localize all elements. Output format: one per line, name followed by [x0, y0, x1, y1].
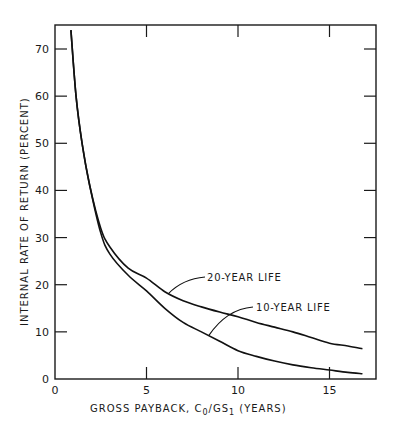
axis-tick-labels: 051015010203040506070 — [35, 43, 337, 397]
chart: 051015010203040506070 20-YEAR LIFE10-YEA… — [0, 0, 395, 429]
y-axis-title: INTERNAL RATE OF RETURN (PERCENT) — [19, 97, 30, 326]
annotation-20-year-leader — [168, 277, 205, 294]
y-tick-label: 20 — [35, 279, 49, 292]
y-tick-label: 40 — [35, 184, 49, 197]
annotation-10-year-life: 10-YEAR LIFE — [256, 302, 331, 313]
plot-frame — [55, 25, 376, 379]
x-tick-label: 5 — [143, 384, 150, 397]
y-tick-label: 60 — [35, 90, 49, 103]
y-tick-label: 30 — [35, 232, 49, 245]
series-10-year-life-line — [71, 30, 363, 374]
x-tick-label: 0 — [52, 384, 59, 397]
y-tick-label: 50 — [35, 137, 49, 150]
y-tick-label: 0 — [42, 373, 49, 386]
axis-ticks — [55, 25, 376, 379]
series-curves — [71, 30, 363, 374]
annotation-20-year-life: 20-YEAR LIFE — [207, 272, 282, 283]
x-tick-label: 10 — [231, 384, 245, 397]
x-tick-label: 15 — [323, 384, 337, 397]
x-axis-title: GROSS PAYBACK, C0/GS1 (YEARS) — [90, 403, 287, 417]
y-tick-label: 10 — [35, 326, 49, 339]
y-tick-label: 70 — [35, 43, 49, 56]
